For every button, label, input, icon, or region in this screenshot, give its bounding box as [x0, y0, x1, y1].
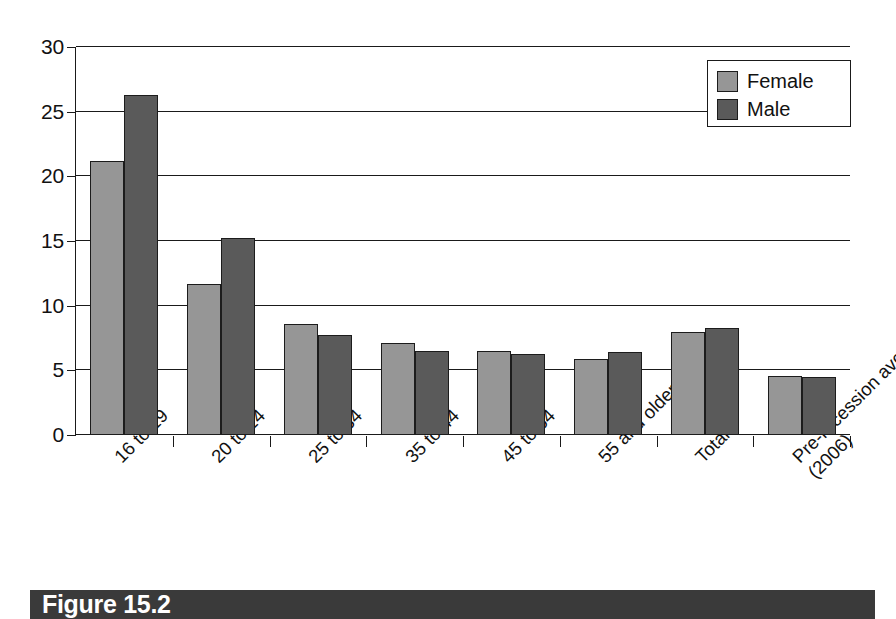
legend-swatch-female-icon	[717, 71, 738, 92]
y-tick-mark-30	[67, 47, 76, 48]
bar-female[interactable]	[90, 161, 124, 435]
x-tick-mark	[560, 436, 561, 447]
bar-group	[173, 47, 270, 435]
y-tick-label-0: 0	[6, 424, 64, 445]
bar-male[interactable]	[221, 238, 255, 435]
bar-female[interactable]	[187, 284, 221, 435]
bar-group	[463, 47, 560, 435]
bar-female[interactable]	[574, 359, 608, 435]
bar-female[interactable]	[284, 324, 318, 435]
x-tick-mark	[270, 436, 271, 447]
y-tick-mark-25	[67, 112, 76, 113]
y-tick-label-5: 5	[6, 359, 64, 380]
x-tick-mark	[657, 436, 658, 447]
bar-male[interactable]	[318, 335, 352, 435]
x-tick-mark	[463, 436, 464, 447]
figure-caption-text: Figure 15.2	[42, 591, 171, 619]
y-tick-label-20: 20	[6, 165, 64, 186]
bar-group	[76, 47, 173, 435]
y-axis-labels: 051015202530	[0, 0, 64, 565]
bar-group	[366, 47, 463, 435]
bar-group	[560, 47, 657, 435]
bar-male[interactable]	[511, 354, 545, 435]
bar-female[interactable]	[768, 376, 802, 435]
bar-female[interactable]	[477, 351, 511, 435]
y-tick-label-10: 10	[6, 295, 64, 316]
y-tick-mark-15	[67, 241, 76, 242]
y-tick-mark-20	[67, 176, 76, 177]
bar-male[interactable]	[124, 95, 158, 435]
x-tick-mark	[753, 436, 754, 447]
y-tick-mark-0	[67, 435, 76, 436]
legend-swatch-male-icon	[717, 99, 738, 120]
y-tick-mark-5	[67, 370, 76, 371]
bar-female[interactable]	[381, 343, 415, 435]
x-tick-mark	[173, 436, 174, 447]
bar-male[interactable]	[608, 352, 642, 435]
legend-item-male: Male	[717, 96, 850, 122]
bar-male[interactable]	[705, 328, 739, 435]
y-tick-label-30: 30	[6, 36, 64, 57]
bar-male[interactable]	[802, 377, 836, 435]
figure-caption-bar: Figure 15.2	[30, 590, 875, 619]
chart-legend: Female Male	[707, 60, 851, 127]
figure-container: 051015202530 16 to 1920 to 2425 to 3435 …	[0, 0, 896, 619]
legend-label-female: Female	[747, 71, 814, 91]
y-tick-mark-10	[67, 306, 76, 307]
chart-figure: 051015202530 16 to 1920 to 2425 to 3435 …	[0, 0, 896, 565]
legend-label-male: Male	[747, 99, 790, 119]
bar-male[interactable]	[415, 351, 449, 435]
bar-female[interactable]	[671, 332, 705, 435]
x-tick-mark	[366, 436, 367, 447]
y-tick-label-25: 25	[6, 101, 64, 122]
legend-item-female: Female	[717, 68, 850, 94]
y-tick-label-15: 15	[6, 230, 64, 251]
bar-group	[270, 47, 367, 435]
